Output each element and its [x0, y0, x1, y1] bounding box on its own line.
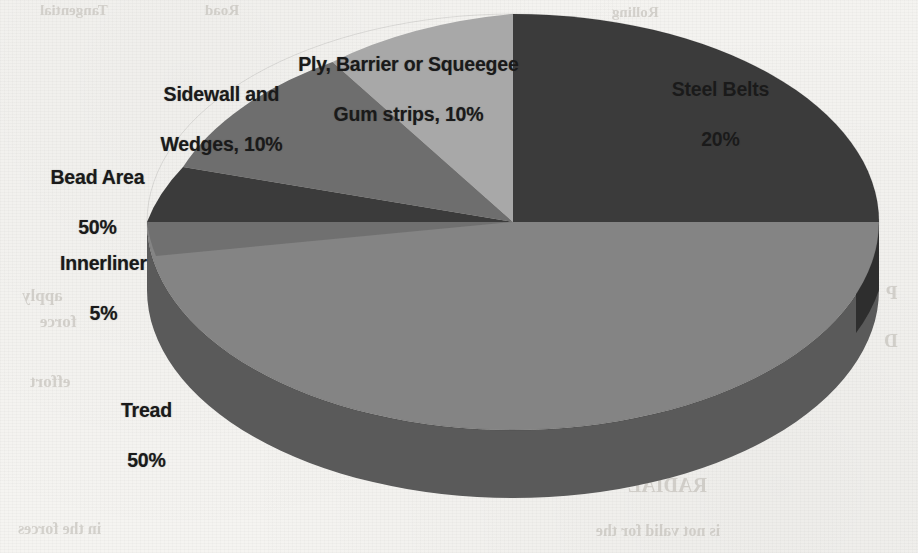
pie-label-ply-barrier-squeegee-line2: Gum strips, 10% — [334, 103, 484, 125]
pie-label-bead-area-line1: Bead Area — [50, 166, 144, 188]
pie-label-tread-line1: Tread — [121, 399, 172, 421]
pie-label-tread: Tread 50% — [89, 373, 183, 498]
pie-label-innerliner: Innerliner 5% — [30, 226, 156, 351]
pie-label-innerliner-line2: 5% — [90, 302, 118, 324]
scanned-page: Tangential Road Rolling apply force effo… — [0, 0, 918, 553]
pie-label-sidewall-and-wedges: Sidewall and Wedges, 10% — [131, 57, 291, 182]
pie-label-sidewall-and-wedges-line2: Wedges, 10% — [160, 133, 282, 155]
pie-label-ply-barrier-squeegee-line1: Ply, Barrier or Squeegee — [298, 53, 518, 75]
pie-label-sidewall-and-wedges-line1: Sidewall and — [164, 83, 280, 105]
pie-label-tread-line2: 50% — [127, 449, 165, 471]
pie-label-ply-barrier-squeegee: Ply, Barrier or Squeegee Gum strips, 10% — [268, 27, 528, 152]
pie-label-steel-belts-line2: 20% — [701, 128, 739, 150]
pie-label-steel-belts: Steel Belts 20% — [638, 52, 782, 177]
pie-label-steel-belts-line1: Steel Belts — [672, 78, 770, 100]
pie-label-innerliner-line1: Innerliner — [60, 252, 147, 274]
